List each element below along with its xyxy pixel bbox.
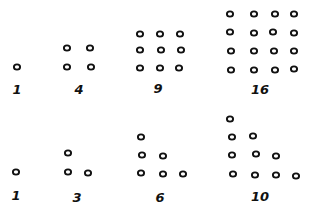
circle-dot [230, 171, 236, 176]
circle-dot [251, 30, 257, 35]
figure-count-label: 10 [251, 190, 269, 203]
circle-dot [291, 30, 297, 35]
circle-dot [273, 172, 279, 177]
circle-dot [251, 48, 257, 53]
figure-count-label: 16 [251, 83, 269, 96]
circle-dot [158, 47, 164, 52]
dot-canvas [0, 0, 312, 211]
circle-dot [138, 134, 144, 139]
circle-dot [87, 45, 93, 50]
circle-dot [291, 11, 297, 16]
circle-dot [178, 47, 184, 52]
circle-dot [176, 65, 182, 70]
dot-figure-1 [14, 64, 20, 69]
circle-dot [157, 31, 163, 36]
figure-count-label: 1 [11, 189, 20, 202]
figure-count-label: 3 [72, 191, 81, 204]
circle-dot [272, 67, 278, 72]
circle-dot [272, 11, 278, 16]
circle-dot [137, 31, 143, 36]
circle-dot [160, 171, 166, 176]
circle-dot [64, 64, 70, 69]
circle-dot [228, 48, 234, 53]
dot-figure-16 [227, 11, 297, 72]
triangular-numbers-row [13, 116, 299, 178]
circle-dot [137, 65, 143, 70]
circle-dot [65, 150, 71, 155]
circle-dot [160, 153, 166, 158]
dot-figure-9 [137, 31, 184, 70]
circle-dot [85, 170, 91, 175]
figure-count-label: 4 [74, 83, 83, 96]
circle-dot [291, 48, 297, 53]
circle-dot [64, 45, 70, 50]
dot-figure-3 [65, 150, 91, 175]
circle-dot [293, 173, 299, 178]
circle-dot [273, 153, 279, 158]
circle-dot [180, 171, 186, 176]
square-numbers-row [14, 11, 297, 72]
circle-dot [229, 152, 235, 157]
circle-dot [65, 169, 71, 174]
circle-dot [251, 67, 257, 72]
circle-dot [253, 151, 259, 156]
circle-dot [252, 172, 258, 177]
figure-count-label: 9 [153, 82, 162, 95]
dot-figure-4 [64, 45, 94, 69]
circle-dot [13, 169, 19, 174]
circle-dot [138, 170, 144, 175]
circle-dot [228, 67, 234, 72]
circle-dot [227, 11, 233, 16]
circle-dot [227, 29, 233, 34]
figure-count-label: 1 [12, 83, 21, 96]
circle-dot [157, 65, 163, 70]
circle-dot [88, 64, 94, 69]
circle-dot [291, 66, 297, 71]
figure-count-label: 6 [155, 191, 164, 204]
circle-dot [177, 31, 183, 36]
dot-figure-6 [138, 134, 186, 176]
dot-figure-1 [13, 169, 19, 174]
circle-dot [270, 29, 276, 34]
dot-figure-10 [227, 116, 299, 178]
circle-dot [251, 11, 257, 16]
circle-dot [271, 48, 277, 53]
circle-dot [137, 47, 143, 52]
circle-dot [14, 64, 20, 69]
circle-dot [250, 133, 256, 138]
circle-dot [227, 116, 233, 121]
circle-dot [139, 152, 145, 157]
circle-dot [229, 134, 235, 139]
